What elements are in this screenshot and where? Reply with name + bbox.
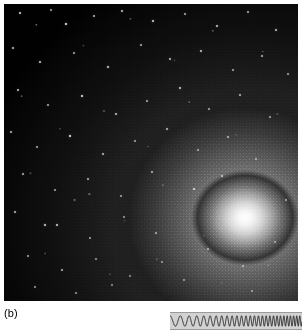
chirp-waveform-path: [170, 316, 302, 326]
chirp-waveform-strip: [170, 312, 302, 330]
emulsion-speckle-texture: [4, 4, 298, 301]
chirp-waveform-svg: [170, 313, 302, 329]
panel-label: (b): [4, 306, 18, 320]
astronomical-photograph: [4, 4, 298, 301]
